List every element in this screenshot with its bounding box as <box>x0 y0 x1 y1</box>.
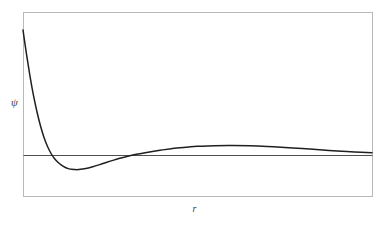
y-axis-label: ψ <box>11 97 18 108</box>
x-axis-label: r <box>0 203 389 214</box>
plot-canvas <box>0 0 389 225</box>
plot-background <box>0 0 389 225</box>
figure-root: ψ r <box>0 0 389 225</box>
